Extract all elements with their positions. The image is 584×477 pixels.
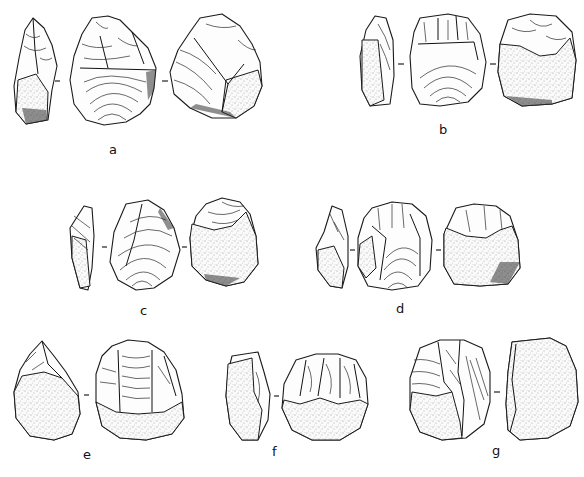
artifact-d-ventral-view: [444, 204, 520, 286]
artifact-d-dorsal-view: [358, 202, 432, 290]
label-b: b: [439, 123, 447, 136]
label-d: d: [396, 302, 404, 315]
artifact-b-side-view: [360, 16, 394, 106]
label-a: a: [109, 143, 117, 156]
artifact-d: [316, 202, 520, 290]
artifact-c-dorsal-view: [110, 200, 180, 290]
artifact-g-dorsal-view: [410, 340, 490, 440]
artifact-f: [226, 352, 368, 440]
artifact-c-side-view: [70, 206, 94, 290]
illustration-plate: [0, 0, 584, 477]
artifact-b-ventral-view: [498, 14, 576, 106]
artifact-f-side-view: [226, 352, 270, 440]
artifact-e-dorsal-view: [96, 340, 184, 440]
label-c: c: [140, 304, 147, 317]
label-f: f: [272, 445, 277, 458]
artifact-g: [410, 338, 578, 440]
artifact-a: [14, 14, 262, 125]
artifact-b-dorsal-view: [410, 14, 486, 106]
artifact-a-ventral-view: [170, 14, 262, 118]
artifact-e-side-view: [14, 341, 80, 440]
artifact-b: [360, 14, 576, 106]
artifact-f-dorsal-view: [282, 354, 368, 440]
artifact-a-dorsal-view: [70, 16, 156, 125]
artifact-e: [14, 340, 184, 440]
artifact-c: [70, 198, 258, 290]
label-g: g: [492, 444, 500, 457]
artifact-c-ventral-view: [190, 198, 258, 286]
artifact-d-side-view: [316, 206, 348, 288]
artifact-a-side-view: [14, 18, 57, 124]
artifact-g-side-view: [506, 338, 578, 440]
label-e: e: [83, 448, 91, 461]
